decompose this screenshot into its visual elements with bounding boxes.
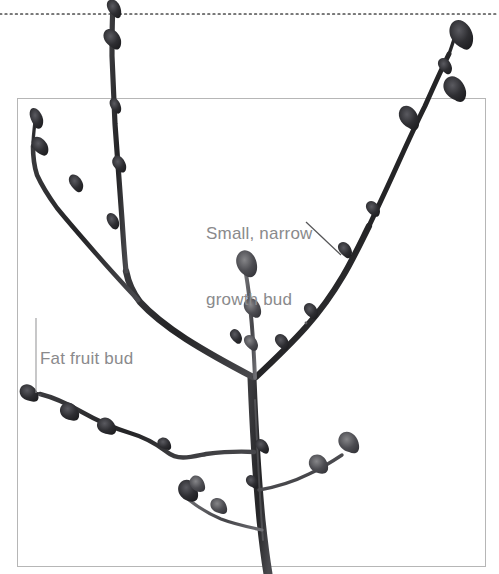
annotation-label-fruit-bud: Fat fruit bud (40, 304, 133, 414)
narrow-growth-bud (107, 213, 120, 229)
narrow-growth-bud (110, 98, 122, 114)
right-main-limb-upper (369, 54, 449, 226)
lower-right-branch (259, 455, 342, 490)
bud-group-lower-right (309, 432, 359, 474)
narrow-growth-bud (69, 175, 83, 193)
fat-fruit-bud (97, 417, 116, 434)
annotation-line: growth bud (206, 289, 313, 311)
fat-fruit-bud (112, 156, 126, 173)
fat-fruit-bud (399, 106, 419, 130)
annotation-label-growth-bud: Small, narrow growth bud (206, 179, 313, 355)
annotation-line: Fat fruit bud (40, 348, 133, 370)
narrow-growth-bud (30, 108, 44, 129)
annotation-line: Small, narrow (206, 223, 313, 245)
fat-fruit-bud (103, 29, 121, 50)
narrow-growth-bud (338, 242, 352, 258)
bud-group-upper-left (30, 108, 120, 229)
fat-fruit-bud (338, 432, 359, 454)
branch-bud-figure: Small, narrow growth bud Fat fruit bud (0, 0, 499, 574)
fat-fruit-bud (210, 498, 227, 514)
fat-fruit-bud (107, 0, 121, 18)
